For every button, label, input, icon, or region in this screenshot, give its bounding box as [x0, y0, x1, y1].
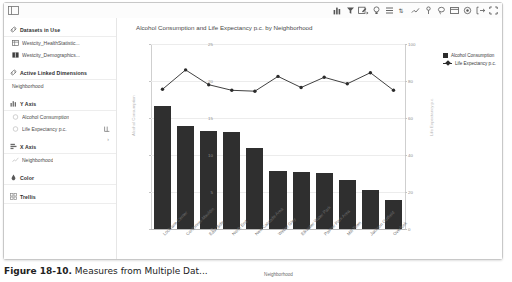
chart-config-sidebar[interactable]: Datasets in Use Westcity_HealthStatistic…	[4, 18, 117, 259]
measure-icon	[12, 126, 19, 132]
legend-line-swatch	[443, 61, 452, 66]
sidebar-section-datasets-in-use: Datasets in Use	[4, 23, 116, 36]
sidebar-section-label: Color	[20, 175, 34, 181]
chart-canvas: Alcohol Consumption and Life Expectancy …	[117, 18, 502, 259]
axis-scale-icon[interactable]	[104, 126, 110, 132]
line-marker[interactable]	[392, 89, 395, 92]
trend-icon[interactable]	[409, 4, 422, 17]
sidebar-section-y-axis: Y Axis	[4, 97, 116, 110]
sidebar-section-color[interactable]: Color	[4, 171, 116, 184]
figure-caption: Figure 18-10. Measures from Multiple Dat…	[4, 266, 208, 276]
plot-area	[151, 44, 405, 229]
filter-icon[interactable]	[344, 4, 357, 17]
y-axis-measure-alcohol-consumption[interactable]: Alcohol Consumption	[4, 111, 116, 123]
y-axis-left-tick-mark	[149, 81, 151, 82]
y-axis-right-tick-label: 0	[408, 227, 430, 232]
sort-icon[interactable]: ⇅	[396, 4, 409, 17]
line-marker[interactable]	[323, 76, 326, 79]
link-icon	[10, 69, 17, 76]
legend-bar-swatch	[443, 53, 448, 58]
dimension-icon	[12, 157, 19, 163]
legend-item-life-expectancy[interactable]: Life Expectancy p.c.	[443, 59, 496, 67]
link-icon	[10, 26, 17, 33]
y-axis-right-tick-mark	[405, 118, 407, 119]
y-axis-icon	[10, 100, 17, 107]
y-axis-right-tick-mark	[405, 81, 407, 82]
y-axis-right-tick-mark	[405, 44, 407, 45]
fullscreen-icon[interactable]	[487, 4, 500, 17]
linked-dimension-neighborhood[interactable]: Neighborhood	[4, 80, 116, 92]
figure-number: Figure 18-10.	[4, 266, 72, 276]
y-axis-right-tick-mark	[405, 155, 407, 156]
y-axis-left-tick-label: 20	[191, 79, 213, 84]
legend-item-alcohol-consumption[interactable]: Alcohol Consumption	[443, 51, 496, 59]
y-axis-left-tick-mark	[149, 118, 151, 119]
table-dataset-icon	[12, 40, 19, 46]
x-axis-dimension-neighborhood[interactable]: Neighborhood	[4, 154, 116, 166]
line-series-life-expectancy[interactable]	[151, 44, 405, 229]
sidebar-section-label: Datasets in Use	[20, 27, 60, 33]
y-axis-right-line	[405, 44, 406, 229]
y-axis-right-tick-label: 40	[408, 153, 430, 158]
y-axis-right-tick-label: 60	[408, 116, 430, 121]
trellis-icon	[10, 193, 17, 200]
line-marker[interactable]	[207, 83, 210, 86]
chart-builder-window: ⇅	[3, 2, 503, 260]
sidebar-section-label: Active Linked Dimensions	[20, 70, 87, 76]
lasso-icon[interactable]	[435, 4, 448, 17]
y-axis-left-tick-mark	[149, 155, 151, 156]
table-dataset-icon	[12, 52, 19, 58]
measure-label: Alcohol Consumption	[22, 114, 69, 120]
figure-caption-text: Measures from Multiple Dat...	[72, 266, 208, 276]
sidebar-section-trellis[interactable]: Trellis ›	[4, 190, 116, 203]
sidebar-section-label: Trellis	[20, 194, 36, 200]
edit-chart-icon[interactable]	[357, 4, 370, 17]
dataset-item-health-statistics[interactable]: Westcity_HealthStatistic...	[4, 37, 116, 49]
chart-legend[interactable]: Alcohol Consumption Life Expectancy p.c.	[443, 51, 496, 67]
y-axis-left-title: Alcohol Consumption	[131, 95, 136, 136]
y-axis-right-tick-mark	[405, 192, 407, 193]
y-axis-left-tick-label: 25	[191, 42, 213, 47]
chart-toolbar[interactable]: ⇅	[331, 4, 500, 17]
y-axis-left-tick-label: 10	[191, 153, 213, 158]
chart-title: Alcohol Consumption and Life Expectancy …	[136, 24, 312, 31]
collapse-panel-icon[interactable]	[8, 5, 19, 15]
line-marker[interactable]	[230, 89, 233, 92]
bulb-icon[interactable]	[370, 4, 383, 17]
measure-icon	[12, 114, 19, 120]
dataset-label: Westcity_Demographics...	[22, 52, 80, 58]
line-marker[interactable]	[184, 68, 187, 71]
measure-label: Life Expectancy p.c.	[22, 126, 67, 132]
sidebar-section-label: X Axis	[20, 144, 36, 150]
y-axis-measure-life-expectancy[interactable]: Life Expectancy p.c.	[4, 123, 116, 135]
table-icon[interactable]	[448, 4, 461, 17]
divider	[4, 203, 116, 204]
line-marker[interactable]	[299, 86, 302, 89]
line-marker[interactable]	[161, 88, 164, 91]
dimension-label: Neighborhood	[22, 157, 53, 163]
color-icon	[10, 174, 17, 181]
dataset-item-demographics[interactable]: Westcity_Demographics...	[4, 49, 116, 61]
columns-icon[interactable]	[383, 4, 396, 17]
target-icon[interactable]	[461, 4, 474, 17]
sidebar-section-active-linked-dimensions: Active Linked Dimensions	[4, 66, 116, 79]
line-marker[interactable]	[369, 71, 372, 74]
y-axis-left-tick-mark	[149, 44, 151, 45]
y-axis-right-tick-label: 20	[408, 190, 430, 195]
legend-label: Alcohol Consumption	[451, 53, 494, 58]
y-axis-right-tick-label: 80	[408, 79, 430, 84]
y-axis-left-tick-mark	[149, 192, 151, 193]
bar-chart-icon[interactable]	[331, 4, 344, 17]
line-marker[interactable]	[346, 82, 349, 85]
line-marker[interactable]	[253, 90, 256, 93]
line-marker[interactable]	[276, 75, 279, 78]
legend-label: Life Expectancy p.c.	[455, 61, 496, 66]
export-icon[interactable]	[474, 4, 487, 17]
x-axis-icon	[10, 143, 17, 150]
annotation-icon[interactable]	[422, 4, 435, 17]
sidebar-section-label: Y Axis	[20, 101, 36, 107]
window-toolbar: ⇅	[4, 3, 502, 19]
y-axis-left-tick-label: 5	[191, 190, 213, 195]
chevron-right-icon[interactable]: ›	[107, 136, 109, 142]
y-axis-left-tick-label: 15	[191, 116, 213, 121]
